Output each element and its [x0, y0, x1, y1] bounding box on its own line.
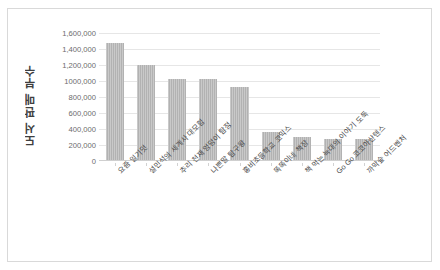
y-axis-tick-label: 200,000 [44, 141, 96, 150]
gridline [99, 33, 380, 34]
x-axis-tick [240, 163, 241, 166]
y-axis-tick-label: 0 [44, 157, 96, 166]
y-axis-tick-label: 1000,000 [44, 77, 96, 86]
y-axis-tick-label: 600,000 [44, 109, 96, 118]
y-axis-tick-label: 400,000 [44, 125, 96, 134]
x-axis-tick [115, 163, 116, 166]
y-axis-tick-label: 1,400,000 [44, 45, 96, 54]
chart-container: 도서 판매 부수 0200,000400,000600,000800,00010… [7, 8, 432, 262]
x-axis-category-labels: 요즘 일기덧설민석의 세계사 대모험추리 천재 엉덩이 탐정나쁜말 탐구왕홍비초… [99, 163, 380, 263]
y-axis-title-text: 도서 판매 부수 [23, 64, 39, 146]
y-axis-tick-label: 1,600,000 [44, 29, 96, 38]
x-axis-line [99, 160, 380, 161]
bar [106, 43, 124, 161]
y-axis-tick-label: 1,200,000 [44, 61, 96, 70]
gridline [99, 49, 380, 50]
y-axis-tick-labels: 0200,000400,000600,000800,0001000,0001,2… [41, 33, 96, 161]
y-axis-tick-label: 800,000 [44, 93, 96, 102]
y-axis-title: 도서 판매 부수 [20, 37, 42, 173]
